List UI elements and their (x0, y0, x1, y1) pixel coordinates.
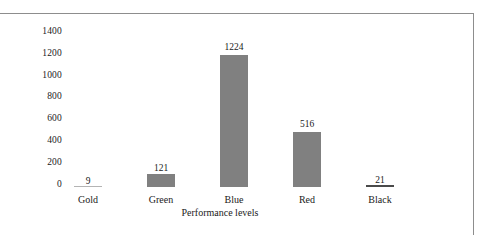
x-axis-title: Performance levels (0, 207, 440, 219)
bar-green (147, 174, 175, 187)
bar-value-blue: 1224 (220, 42, 248, 52)
bar-red (293, 132, 321, 187)
category-label-blue: Blue (214, 194, 254, 205)
category-label-red: Red (287, 194, 327, 205)
category-label-gold: Gold (68, 194, 108, 205)
bar-value-black: 21 (366, 175, 394, 185)
category-label-black: Black (360, 194, 400, 205)
bar-value-green: 121 (147, 163, 175, 173)
bar-chart-plot-area: 1400 1200 1000 800 600 400 200 0 9 Gold … (0, 0, 487, 235)
chart-figure: 1400 1200 1000 800 600 400 200 0 9 Gold … (0, 0, 487, 235)
category-label-green: Green (141, 194, 181, 205)
bar-value-gold: 9 (74, 176, 102, 186)
bar-gold (74, 186, 102, 187)
bar-blue (220, 55, 248, 187)
bar-black (366, 185, 394, 187)
bar-value-red: 516 (293, 119, 321, 129)
